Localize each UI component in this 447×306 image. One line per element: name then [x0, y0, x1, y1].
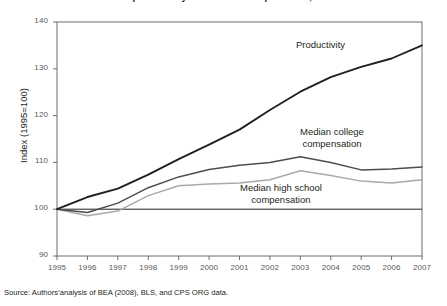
x-tick-label: 2007	[405, 263, 439, 272]
x-tick-label: 2006	[375, 263, 409, 272]
x-tick-label: 2005	[344, 263, 378, 272]
x-tick-label: 2001	[223, 263, 257, 272]
x-tick-label: 1995	[40, 263, 74, 272]
x-tick-label: 1997	[101, 263, 135, 272]
series-label-productivity-text: Productivity	[296, 39, 345, 50]
y-tick-label: 100	[24, 203, 48, 212]
x-tick-label: 1999	[162, 263, 196, 272]
x-tick-label: 1998	[131, 263, 165, 272]
series-label-productivity: Productivity	[296, 39, 345, 51]
y-axis-ticks	[53, 22, 57, 256]
series-label-median-college-compensation: Median college compensation	[300, 126, 364, 150]
series-label-college-line2: compensation	[302, 138, 361, 149]
x-tick-label: 1996	[70, 263, 104, 272]
plot-area	[0, 0, 447, 306]
y-tick-label: 110	[24, 156, 48, 165]
x-tick-label: 2004	[314, 263, 348, 272]
series-label-highschool-line2: compensation	[251, 194, 310, 205]
series-label-highschool-line1: Median high school	[240, 182, 322, 193]
axis-frame	[57, 22, 422, 256]
y-tick-label: 140	[24, 16, 48, 25]
y-tick-label: 90	[24, 250, 48, 259]
x-tick-label: 2002	[253, 263, 287, 272]
y-tick-label: 130	[24, 63, 48, 72]
source-note: Source: Authors’analysis of BEA (2008), …	[4, 288, 228, 297]
series-label-median-high-school-compensation: Median high school compensation	[240, 182, 322, 206]
x-tick-label: 2003	[283, 263, 317, 272]
x-tick-label: 2000	[192, 263, 226, 272]
x-axis-ticks	[57, 256, 422, 260]
y-tick-label: 120	[24, 110, 48, 119]
series-label-college-line1: Median college	[300, 126, 364, 137]
chart-figure: Growth of productivity and median compen…	[0, 0, 447, 306]
